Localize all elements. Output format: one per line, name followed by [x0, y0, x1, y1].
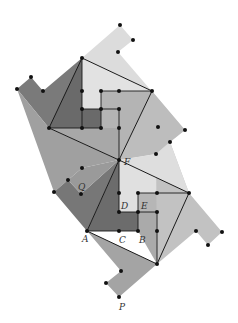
dot [80, 126, 84, 130]
dot-F [117, 158, 121, 162]
dot [119, 269, 123, 273]
dot [131, 38, 135, 42]
dot [150, 89, 154, 93]
geometry-diagram: F Q D E A C B P [0, 0, 238, 323]
dot [116, 50, 120, 54]
dot [104, 281, 108, 285]
dot [220, 230, 224, 234]
dot-B [136, 229, 140, 233]
dot [187, 191, 191, 195]
dot [117, 126, 121, 130]
dot [154, 152, 158, 156]
dot [155, 262, 159, 266]
dot [52, 190, 56, 194]
dot [118, 23, 122, 27]
label-E: E [140, 201, 148, 211]
dot [206, 243, 210, 247]
dot [136, 191, 140, 195]
dot [155, 210, 159, 214]
dot [155, 229, 159, 233]
dot [117, 107, 121, 111]
dot [117, 89, 121, 93]
dot [99, 89, 103, 93]
dot-Q [79, 192, 83, 196]
label-F: F [123, 157, 131, 167]
label-P: P [118, 302, 126, 312]
dot [168, 140, 172, 144]
label-D: D [120, 201, 128, 211]
dot [155, 191, 159, 195]
dot-C [117, 229, 121, 233]
label-Q: Q [78, 182, 86, 192]
dot [117, 191, 121, 195]
dot [156, 125, 160, 129]
dot [80, 89, 84, 93]
dot [47, 126, 51, 130]
dot [80, 166, 84, 170]
dot [194, 229, 198, 233]
dot [183, 128, 187, 132]
label-C: C [119, 235, 126, 245]
dot [29, 75, 33, 79]
label-B: B [138, 235, 146, 245]
dot [66, 178, 70, 182]
dot-P [117, 295, 121, 299]
dot-A [85, 229, 89, 233]
dot [80, 107, 84, 111]
dot-E [136, 210, 140, 214]
dot [41, 89, 45, 93]
label-A: A [81, 234, 89, 244]
dot [99, 107, 103, 111]
dot [99, 126, 103, 130]
dot [15, 87, 19, 91]
dot [80, 56, 84, 60]
